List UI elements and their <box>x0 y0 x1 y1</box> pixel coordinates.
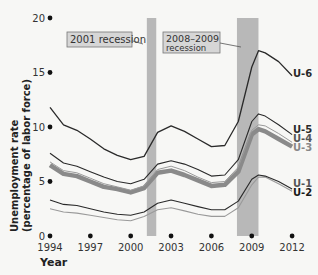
y-tick-dot <box>48 234 53 239</box>
y-tick-dot <box>48 16 53 21</box>
annotation-2001: 2001 recession <box>67 32 146 47</box>
series-label-u2: U-2 <box>293 187 312 198</box>
x-tick-label: 2009 <box>239 242 264 253</box>
x-tick-label: 2000 <box>118 242 143 253</box>
y-tick-dot <box>48 70 53 75</box>
y-tick-label: 0 <box>39 231 45 242</box>
x-tick-dot <box>128 234 133 239</box>
x-tick-dot <box>209 234 214 239</box>
x-tick-label: 2006 <box>199 242 224 253</box>
recession-2001-shade <box>147 18 156 236</box>
y-axis-ticks: 05101520 <box>32 13 52 242</box>
series-label-u6: U-6 <box>293 68 312 79</box>
x-tick-dot <box>249 234 254 239</box>
annotation-2008: 2008–2009 recession <box>163 32 241 53</box>
x-axis-label: Year <box>39 256 68 269</box>
y-tick-label: 15 <box>32 67 45 78</box>
y-tick-label: 5 <box>39 176 45 187</box>
x-tick-label: 1997 <box>78 242 103 253</box>
y-tick-label: 10 <box>32 122 45 133</box>
unemployment-chart: 2001 recession 2008–2009 recession 05101… <box>0 0 318 275</box>
x-tick-label: 2012 <box>279 242 304 253</box>
x-tick-dot <box>290 234 295 239</box>
y-axis-label: Unemployment rate <box>9 120 20 232</box>
y-tick-label: 20 <box>32 13 45 24</box>
annotation-2001-label: 2001 recession <box>70 34 146 45</box>
y-axis-sublabel: (percentage of labor force) <box>21 79 32 232</box>
annotation-2008-label-line2: recession <box>166 43 206 53</box>
x-tick-label: 1994 <box>37 242 62 253</box>
series-label-u3: U-3 <box>293 142 312 153</box>
x-axis-ticks: 1994199720002003200620092012 <box>37 234 305 253</box>
x-tick-dot <box>169 234 174 239</box>
x-tick-label: 2003 <box>158 242 183 253</box>
y-tick-dot <box>48 179 53 184</box>
x-tick-dot <box>88 234 93 239</box>
y-tick-dot <box>48 125 53 130</box>
